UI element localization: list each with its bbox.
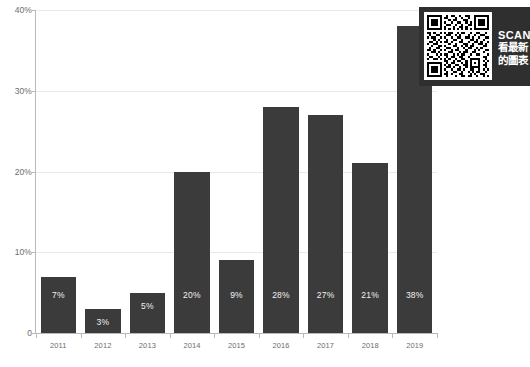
bar[interactable]: 7% (41, 277, 77, 334)
y-axis-tick-mark (32, 91, 36, 92)
x-axis-tick-label: 2016 (259, 342, 304, 350)
qr-code-icon[interactable] (424, 12, 492, 80)
x-axis-tick-label: 2012 (81, 342, 126, 350)
x-axis-tick-label: 2017 (303, 342, 348, 350)
bar-chart: 7%3%5%20%9%28%27%21%38% 010%20%30%40% 20… (0, 0, 530, 367)
y-axis-tick-label: 0 (2, 329, 32, 338)
x-axis-tick-mark (81, 334, 82, 338)
y-axis-tick-label: 30% (2, 87, 32, 96)
x-axis-tick-label: 2011 (36, 342, 81, 350)
bar-value-label: 38% (397, 291, 433, 300)
y-axis-tick-label: 10% (2, 248, 32, 257)
bar-value-label: 3% (85, 318, 121, 327)
bar-value-label: 5% (130, 302, 166, 311)
bar-value-label: 27% (308, 291, 344, 300)
bar-value-label: 9% (219, 291, 255, 300)
x-axis-tick-label: 2013 (125, 342, 170, 350)
x-axis-tick-mark (259, 334, 260, 338)
x-axis-tick-label: 2014 (170, 342, 215, 350)
x-axis-tick-mark (348, 334, 349, 338)
x-axis-tick-mark (170, 334, 171, 338)
bar[interactable]: 21% (352, 163, 388, 333)
x-axis-tick-mark (214, 334, 215, 338)
plot-area: 7%3%5%20%9%28%27%21%38% (36, 10, 437, 333)
y-axis-tick-mark (32, 252, 36, 253)
qr-panel-text: SCAN 看最新 的圖表 (492, 7, 530, 86)
x-axis-tick-mark (392, 334, 393, 338)
x-axis-tick-label: 2018 (348, 342, 393, 350)
y-axis-tick-label: 40% (2, 6, 32, 15)
gridline (36, 10, 437, 11)
qr-cn-line-1: 看最新 (498, 41, 530, 54)
qr-scan-label: SCAN (498, 29, 530, 41)
bar[interactable]: 3% (85, 309, 121, 333)
bar-value-label: 21% (352, 291, 388, 300)
y-axis-tick-label: 20% (2, 168, 32, 177)
y-axis-tick-mark (32, 10, 36, 11)
bar-value-label: 20% (174, 291, 210, 300)
bar-value-label: 7% (41, 291, 77, 300)
x-axis-tick-mark (303, 334, 304, 338)
bar[interactable]: 27% (308, 115, 344, 333)
gridline (36, 91, 437, 92)
x-axis-tick-mark (36, 334, 37, 338)
qr-cn-line-2: 的圖表 (498, 54, 530, 67)
x-axis-tick-labels: 201120122013201420152016201720182019 (36, 334, 437, 358)
x-axis-tick-label: 2019 (392, 342, 437, 350)
bar[interactable]: 5% (130, 293, 166, 333)
bar[interactable]: 20% (174, 172, 210, 334)
bar[interactable]: 9% (219, 260, 255, 333)
y-axis-tick-labels: 010%20%30%40% (0, 0, 32, 367)
y-axis-tick-mark (32, 172, 36, 173)
x-axis-tick-mark (437, 334, 438, 338)
bar[interactable]: 28% (263, 107, 299, 333)
qr-scan-panel[interactable]: SCAN 看最新 的圖表 (419, 7, 530, 86)
bar-value-label: 28% (263, 291, 299, 300)
x-axis-tick-label: 2015 (214, 342, 259, 350)
x-axis-tick-mark (125, 334, 126, 338)
